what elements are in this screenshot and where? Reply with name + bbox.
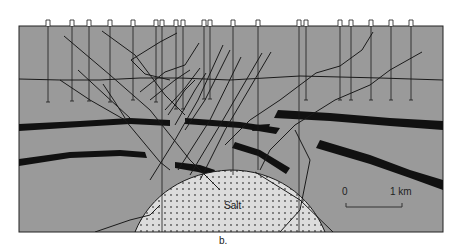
salt-label: Salt <box>224 200 241 211</box>
figure-caption: b. <box>219 235 227 246</box>
scale-start-label: 0 <box>342 186 348 197</box>
cross-section-figure <box>0 0 459 252</box>
scale-end-label: 1 km <box>390 186 412 197</box>
